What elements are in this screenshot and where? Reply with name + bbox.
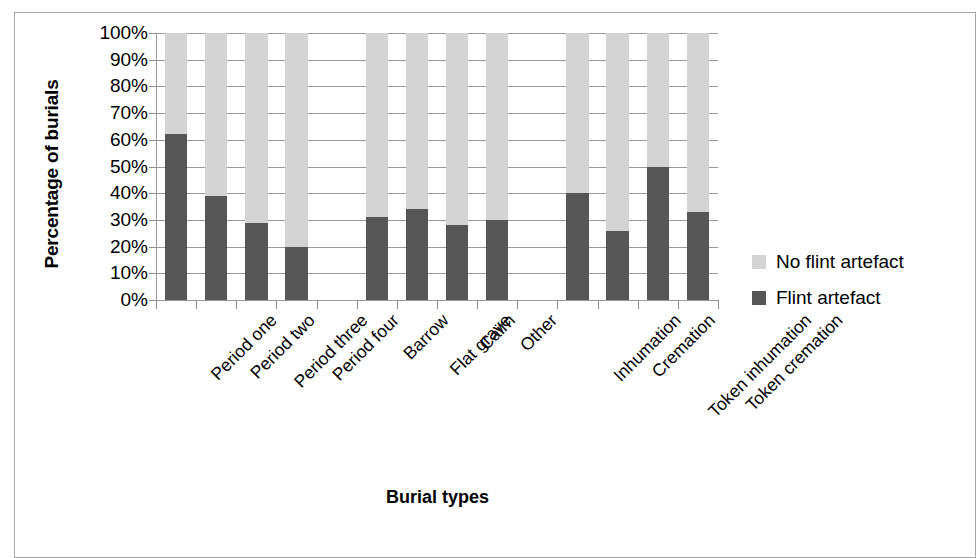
bar-segment-flint-artefact[interactable] bbox=[205, 196, 227, 300]
legend-item[interactable]: No flint artefact bbox=[752, 244, 904, 280]
plot-area bbox=[156, 33, 718, 300]
bar-segment-no-flint-artefact[interactable] bbox=[446, 33, 468, 225]
bar-slot[interactable] bbox=[486, 33, 508, 300]
y-axis-tick-label: 90% bbox=[78, 50, 148, 69]
legend-item[interactable]: Flint artefact bbox=[752, 280, 904, 316]
y-axis-tick-label: 50% bbox=[78, 157, 148, 176]
y-axis-tick bbox=[149, 220, 156, 221]
bar-segment-no-flint-artefact[interactable] bbox=[406, 33, 428, 209]
bar-segment-flint-artefact[interactable] bbox=[285, 247, 307, 300]
y-axis-tick-label: 20% bbox=[78, 237, 148, 256]
chart-legend: No flint artefactFlint artefact bbox=[752, 244, 904, 316]
legend-label: No flint artefact bbox=[776, 251, 904, 273]
gridline bbox=[156, 167, 718, 168]
legend-label: Flint artefact bbox=[776, 287, 881, 309]
x-axis-tick-labels: Period onePeriod twoPeriod threePeriod f… bbox=[156, 308, 756, 448]
y-axis-tick bbox=[149, 300, 156, 301]
x-axis-tick-label: Barrow bbox=[399, 310, 453, 364]
bar-segment-no-flint-artefact[interactable] bbox=[205, 33, 227, 196]
bar-segment-flint-artefact[interactable] bbox=[647, 167, 669, 301]
bar-slot[interactable] bbox=[205, 33, 227, 300]
y-axis-tick bbox=[149, 113, 156, 114]
gridline bbox=[156, 193, 718, 194]
y-axis-tick-labels: 100%90%80%70%60%50%40%30%20%10%0% bbox=[72, 33, 148, 300]
y-axis-tick bbox=[149, 33, 156, 34]
bar-slot[interactable] bbox=[285, 33, 307, 300]
y-axis-tick bbox=[149, 140, 156, 141]
bar-segment-no-flint-artefact[interactable] bbox=[687, 33, 709, 212]
gridline bbox=[156, 33, 718, 34]
gridline bbox=[156, 140, 718, 141]
bar-segment-no-flint-artefact[interactable] bbox=[285, 33, 307, 247]
y-axis-tick bbox=[149, 60, 156, 61]
gridline bbox=[156, 60, 718, 61]
gridline bbox=[156, 113, 718, 114]
x-axis-tick-label: Other bbox=[516, 310, 562, 356]
legend-swatch-icon bbox=[752, 291, 766, 305]
x-axis-title: Burial types bbox=[156, 487, 719, 508]
y-axis-tick-label: 80% bbox=[78, 76, 148, 95]
bar-slot[interactable] bbox=[687, 33, 709, 300]
bar-segment-flint-artefact[interactable] bbox=[606, 231, 628, 300]
bar-slot[interactable] bbox=[446, 33, 468, 300]
bar-segment-no-flint-artefact[interactable] bbox=[566, 33, 588, 193]
bar-segment-flint-artefact[interactable] bbox=[486, 220, 508, 300]
bar-segment-no-flint-artefact[interactable] bbox=[647, 33, 669, 167]
y-axis-tick bbox=[149, 86, 156, 87]
bar-segment-flint-artefact[interactable] bbox=[165, 134, 187, 300]
bar-slot[interactable] bbox=[165, 33, 187, 300]
bar-segment-no-flint-artefact[interactable] bbox=[165, 33, 187, 134]
y-axis-tick-label: 10% bbox=[78, 263, 148, 282]
legend-swatch-icon bbox=[752, 255, 766, 269]
y-axis-tick bbox=[149, 193, 156, 194]
gridlines bbox=[156, 33, 718, 300]
gridline bbox=[156, 86, 718, 87]
y-axis-tick bbox=[149, 247, 156, 248]
bar-segment-flint-artefact[interactable] bbox=[446, 225, 468, 300]
gridline bbox=[156, 273, 718, 274]
y-axis-tick-label: 70% bbox=[78, 103, 148, 122]
y-axis-tick-label: 100% bbox=[78, 23, 148, 42]
bar-segment-flint-artefact[interactable] bbox=[406, 209, 428, 300]
y-axis-tick-label: 60% bbox=[78, 130, 148, 149]
bar-segment-flint-artefact[interactable] bbox=[566, 193, 588, 300]
bar-slot[interactable] bbox=[606, 33, 628, 300]
y-axis-tick-label: 40% bbox=[78, 183, 148, 202]
bar-segment-no-flint-artefact[interactable] bbox=[366, 33, 388, 217]
bar-slot[interactable] bbox=[406, 33, 428, 300]
bar-segment-no-flint-artefact[interactable] bbox=[486, 33, 508, 220]
bar-segment-flint-artefact[interactable] bbox=[366, 217, 388, 300]
y-axis-title: Percentage of burials bbox=[41, 44, 63, 304]
bar-segment-flint-artefact[interactable] bbox=[687, 212, 709, 300]
y-axis-tick bbox=[149, 273, 156, 274]
bar-segment-no-flint-artefact[interactable] bbox=[245, 33, 267, 223]
bar-slot[interactable] bbox=[566, 33, 588, 300]
y-axis-tick-label: 30% bbox=[78, 210, 148, 229]
bar-slot[interactable] bbox=[245, 33, 267, 300]
y-axis-tick bbox=[149, 167, 156, 168]
bar-slot[interactable] bbox=[647, 33, 669, 300]
bar-segment-no-flint-artefact[interactable] bbox=[606, 33, 628, 231]
y-axis-tick-label: 0% bbox=[78, 290, 148, 309]
bar-slot[interactable] bbox=[366, 33, 388, 300]
gridline bbox=[156, 247, 718, 248]
gridline bbox=[156, 220, 718, 221]
bar-segment-flint-artefact[interactable] bbox=[245, 223, 267, 300]
